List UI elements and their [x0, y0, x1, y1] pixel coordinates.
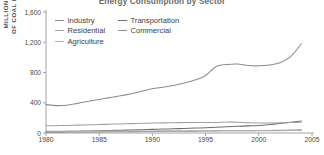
- legend-swatch-icon: [118, 20, 127, 21]
- legend-row: IndustryTransportation: [55, 15, 225, 26]
- legend-row: Agriculture: [55, 36, 225, 47]
- legend-label: Commercial: [131, 26, 172, 35]
- legend-swatch-icon: [118, 30, 127, 31]
- legend-item-residential[interactable]: Residential: [55, 26, 118, 35]
- legend-label: Residential: [68, 26, 106, 35]
- legend-item-transportation[interactable]: Transportation: [118, 16, 179, 25]
- series-line-agriculture: [46, 131, 301, 132]
- legend-label: Agriculture: [68, 37, 104, 46]
- legend-row: ResidentialCommercial: [55, 26, 225, 37]
- legend-label: Transportation: [131, 16, 180, 25]
- legend-label: Industry: [68, 16, 95, 25]
- legend-item-agriculture[interactable]: Agriculture: [55, 37, 118, 46]
- legend-swatch-icon: [55, 41, 64, 42]
- legend-item-industry[interactable]: Industry: [55, 16, 118, 25]
- chart-container: Energy Consumption by Sector MILLIONS OF…: [0, 0, 324, 155]
- series-line-industry: [46, 44, 301, 106]
- legend-swatch-icon: [55, 30, 64, 31]
- chart-legend: IndustryTransportationResidentialCommerc…: [55, 15, 225, 47]
- legend-item-commercial[interactable]: Commercial: [118, 26, 171, 35]
- legend-swatch-icon: [55, 20, 64, 21]
